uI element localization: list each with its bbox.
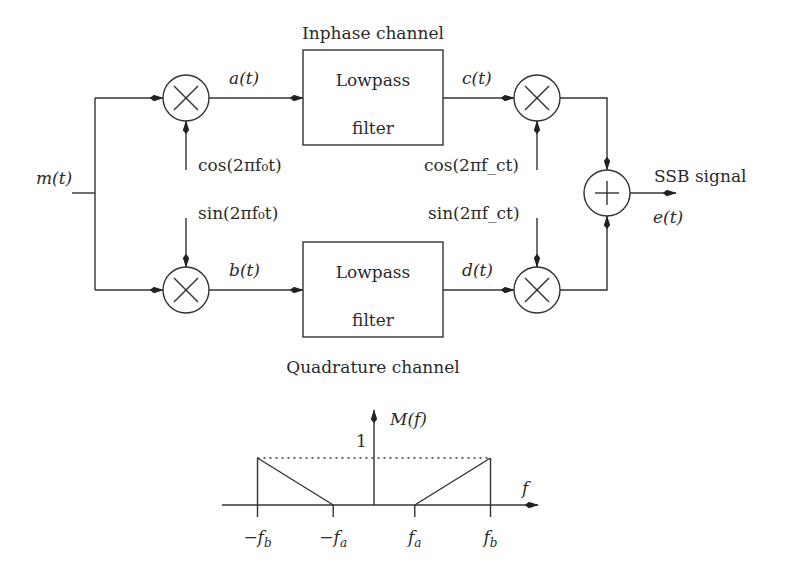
tick-label-fa: fa	[406, 527, 421, 550]
level-one-label: 1	[356, 431, 367, 451]
to-adder-bottom-arrow	[560, 216, 607, 290]
signal-d-label: d(t)	[462, 260, 493, 280]
signal-a-label: a(t)	[229, 68, 259, 88]
spectrum-plot: M(f) f 1 −fb−fafafb	[222, 409, 538, 550]
spectrum-xlabel: f	[520, 478, 531, 498]
ssb-modulator-diagram: Inphase channel m(t) cos(2πf₀t) a(t) Low…	[0, 0, 796, 570]
tick-label-neg-fb: −fb	[243, 527, 271, 550]
to-adder-top-arrow	[560, 98, 607, 170]
output-signal-label: e(t)	[653, 207, 683, 227]
signal-c-label: c(t)	[462, 68, 492, 88]
sin-f0-label: sin(2πf₀t)	[198, 203, 278, 223]
lpf-top-line2: filter	[352, 118, 395, 138]
inphase-channel-title: Inphase channel	[302, 23, 444, 43]
lpf-bottom-line2: filter	[352, 310, 395, 330]
tick-label-neg-fa: −fa	[319, 527, 347, 550]
spectrum-ylabel: M(f)	[389, 409, 427, 429]
lpf-top-line1: Lowpass	[336, 70, 411, 90]
input-signal-label: m(t)	[36, 168, 72, 188]
left-sideband-slope	[258, 458, 334, 505]
bottom-left-mixer	[163, 267, 209, 313]
cos-f0-label: cos(2πf₀t)	[198, 155, 282, 175]
bottom-right-mixer	[514, 267, 560, 313]
top-right-mixer	[514, 75, 560, 121]
lpf-bottom-line1: Lowpass	[336, 262, 411, 282]
adder	[584, 170, 630, 216]
quadrature-channel-title: Quadrature channel	[286, 357, 460, 377]
tick-label-fb: fb	[482, 527, 498, 550]
cos-fc-label: cos(2πf_ct)	[424, 155, 519, 175]
output-label: SSB signal	[654, 166, 746, 186]
sin-fc-label: sin(2πf_ct)	[428, 203, 520, 223]
right-sideband-slope	[415, 458, 491, 505]
top-left-mixer	[163, 75, 209, 121]
signal-b-label: b(t)	[229, 260, 260, 280]
